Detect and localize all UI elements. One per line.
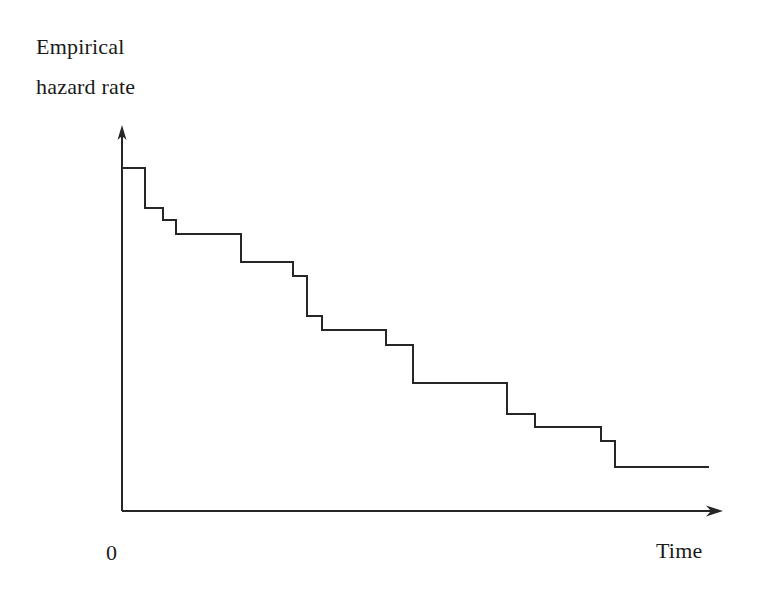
y-axis-label-line-2: hazard rate — [36, 74, 135, 100]
y-axis-label-line-1: Empirical — [36, 34, 125, 60]
x-axis-label: Time — [656, 538, 702, 564]
step-function-series — [122, 168, 709, 467]
axes-group — [118, 125, 724, 517]
empirical-hazard-step-line — [122, 168, 709, 467]
figure-canvas: Empirical hazard rate 0 Time — [0, 0, 757, 604]
origin-tick-label: 0 — [106, 540, 117, 566]
